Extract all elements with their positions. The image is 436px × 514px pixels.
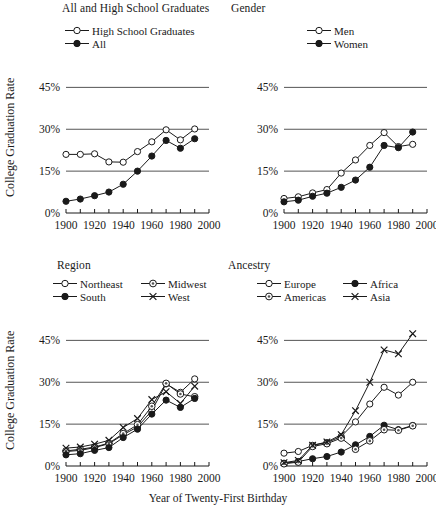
data-point-west bbox=[120, 424, 127, 431]
data-point-all bbox=[92, 193, 98, 199]
data-point-west bbox=[149, 396, 156, 403]
y-tick-label: 30% bbox=[257, 376, 279, 388]
data-point-all bbox=[163, 137, 169, 143]
x-tick-label: 1960 bbox=[140, 472, 163, 484]
panel-title-gender: Gender bbox=[231, 2, 265, 14]
data-point-americas-dot bbox=[383, 428, 386, 431]
legend-label: South bbox=[78, 291, 106, 303]
data-point-asia bbox=[409, 330, 416, 337]
data-point-women bbox=[310, 193, 316, 199]
axes: 45%30%15%0%190019201940196019802000 bbox=[257, 330, 436, 484]
y-tick-label: 45% bbox=[257, 81, 279, 93]
data-point-south bbox=[120, 434, 126, 440]
data-point-all bbox=[63, 198, 69, 204]
axes: 45%30%15%0%190019201940196019802000 bbox=[39, 334, 221, 484]
legend-label: Women bbox=[332, 38, 368, 50]
cross-marker-icon bbox=[140, 290, 166, 303]
data-point-europe bbox=[367, 401, 373, 407]
legend-item-northeast: Northeast bbox=[52, 277, 140, 290]
data-point-south bbox=[106, 444, 112, 450]
y-tick-label: 45% bbox=[39, 81, 61, 93]
x-tick-label: 1980 bbox=[169, 219, 192, 231]
panel-all-and-hs-graduates: All and High School Graduates High Schoo… bbox=[0, 0, 218, 257]
legend-label: Asia bbox=[368, 291, 390, 303]
x-tick-label: 1920 bbox=[301, 472, 324, 484]
data-point-africa bbox=[310, 456, 316, 462]
data-point-high-school-graduates bbox=[120, 159, 126, 165]
y-tick-label: 15% bbox=[257, 165, 279, 177]
y-axis-label: College Graduation Rate bbox=[3, 331, 17, 450]
y-tick-label: 0% bbox=[45, 460, 61, 472]
data-point-men bbox=[352, 157, 358, 163]
x-tick-label: 1960 bbox=[358, 472, 381, 484]
series-line-all bbox=[66, 139, 195, 202]
plot-gender: 45%30%15%0%190019201940196019802000 bbox=[218, 57, 436, 257]
legend-label: Europe bbox=[282, 278, 316, 290]
x-tick-label: 2000 bbox=[416, 472, 436, 484]
legend-label: Midwest bbox=[166, 278, 207, 290]
legend-gender: Men Women bbox=[306, 24, 368, 50]
data-point-west bbox=[191, 383, 198, 390]
legend-region: Northeast Midwest South West bbox=[52, 277, 207, 303]
data-point-europe bbox=[381, 384, 387, 390]
data-point-women bbox=[295, 197, 301, 203]
data-point-men bbox=[338, 170, 344, 176]
filled-circle-marker-icon bbox=[306, 37, 332, 50]
data-point-americas-dot bbox=[411, 425, 414, 428]
data-point-midwest-dot bbox=[165, 382, 168, 385]
data-point-all bbox=[106, 189, 112, 195]
data-point-high-school-graduates bbox=[163, 127, 169, 133]
panel-title-ancestry: Ancestry bbox=[228, 259, 270, 271]
x-tick-label: 1900 bbox=[55, 472, 78, 484]
data-point-high-school-graduates bbox=[134, 148, 140, 154]
x-tick-label: 2000 bbox=[416, 219, 436, 231]
data-point-all bbox=[177, 145, 183, 151]
x-tick-label: 1920 bbox=[83, 219, 106, 231]
y-tick-label: 15% bbox=[39, 418, 61, 430]
legend-item-women: Women bbox=[306, 37, 368, 50]
plot-ancestry: 45%30%15%0%190019201940196019802000 bbox=[218, 310, 436, 510]
data-point-all bbox=[120, 181, 126, 187]
legend-row: Northeast Midwest bbox=[52, 277, 207, 290]
x-tick-label: 1900 bbox=[273, 219, 296, 231]
data-point-women bbox=[281, 199, 287, 205]
series-line-europe bbox=[284, 382, 413, 453]
legend-label: Americas bbox=[282, 291, 326, 303]
open-circle-marker-icon bbox=[256, 277, 282, 290]
data-point-all bbox=[77, 196, 83, 202]
y-tick-label: 0% bbox=[45, 207, 61, 219]
x-tick-label: 1960 bbox=[140, 219, 163, 231]
dotted-circle-marker-icon bbox=[140, 277, 166, 290]
data-point-south bbox=[149, 411, 155, 417]
legend-all-and-hs: High School Graduates All bbox=[64, 24, 195, 50]
data-point-women bbox=[352, 177, 358, 183]
data-point-asia bbox=[352, 407, 359, 414]
data-point-asia bbox=[381, 347, 388, 354]
panel-title-all-and-hs: All and High School Graduates bbox=[62, 2, 209, 14]
data-point-all bbox=[134, 168, 140, 174]
data-point-high-school-graduates bbox=[192, 126, 198, 132]
y-axis-label-group: College Graduation Rate bbox=[3, 78, 17, 197]
data-point-women bbox=[410, 129, 416, 135]
legend-row: South West bbox=[52, 290, 207, 303]
y-tick-label: 30% bbox=[39, 376, 61, 388]
x-tick-label: 1940 bbox=[112, 472, 135, 484]
data-point-women bbox=[395, 145, 401, 151]
legend-label: West bbox=[166, 291, 190, 303]
y-axis-label: College Graduation Rate bbox=[3, 78, 17, 197]
legend-label: Men bbox=[332, 25, 354, 37]
data-point-women bbox=[367, 164, 373, 170]
legend-item-all: All bbox=[64, 37, 106, 50]
axes: 45%30%15%0%190019201940196019802000 bbox=[257, 81, 436, 231]
data-point-midwest-dot bbox=[151, 405, 154, 408]
data-point-south bbox=[192, 395, 198, 401]
data-point-south bbox=[77, 451, 83, 457]
data-point-south bbox=[63, 452, 69, 458]
data-point-africa bbox=[324, 453, 330, 459]
filled-circle-marker-icon bbox=[52, 290, 78, 303]
open-circle-marker-icon bbox=[306, 24, 332, 37]
legend-item-west: West bbox=[140, 290, 190, 303]
y-tick-label: 0% bbox=[263, 207, 279, 219]
data-point-west bbox=[134, 415, 141, 422]
panel-gender: Gender Men Women 45%30%15%0%190019201940… bbox=[218, 0, 436, 257]
